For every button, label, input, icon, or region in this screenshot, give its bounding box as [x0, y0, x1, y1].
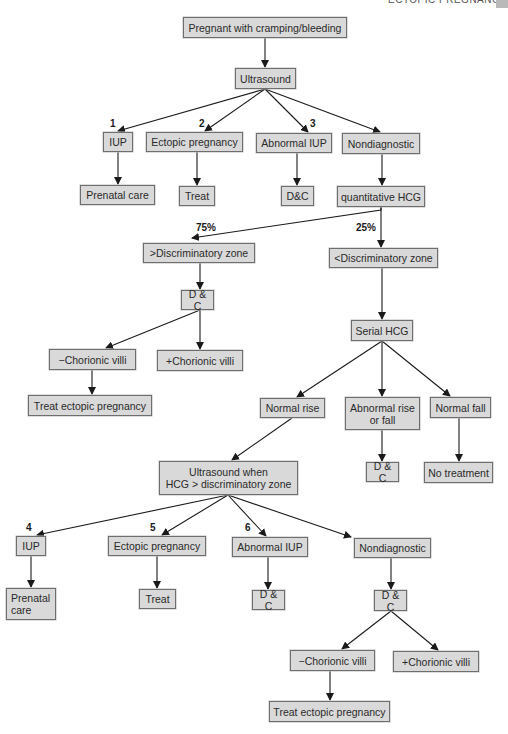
- node-ultrasound: Ultrasound: [235, 68, 296, 89]
- label-25-percent: 25%: [356, 222, 376, 233]
- node-prenatal-care-1: Prenatal care: [80, 185, 155, 205]
- node-normal-fall: Normal fall: [430, 397, 491, 418]
- node-abnormal-iup-1: Abnormal IUP: [256, 133, 332, 153]
- label-5: 5: [150, 522, 156, 533]
- label-3: 3: [310, 118, 316, 129]
- node-abnormal-iup-2: Abnormal IUP: [232, 537, 308, 557]
- node-ectopic-1: Ectopic pregnancy: [146, 132, 243, 152]
- node-ultrasound-when-hcg: Ultrasound when HCG > discriminatory zon…: [159, 461, 298, 495]
- node-below-discriminatory-zone: <Discriminatory zone: [329, 248, 438, 268]
- running-title: ECTOPIC PREGNANCY: [388, 0, 507, 5]
- node-above-discriminatory-zone: >Discriminatory zone: [143, 243, 255, 263]
- node-serial-hcg: Serial HCG: [351, 320, 413, 341]
- node-prenatal-care-2: Prenatal care: [6, 588, 56, 620]
- node-nondiagnostic-2: Nondiagnostic: [354, 538, 431, 558]
- node-positive-chorionic-villi-1: +Chorionic villi: [157, 350, 243, 371]
- node-abnormal-rise-or-fall: Abnormal rise or fall: [345, 397, 420, 430]
- label-1: 1: [110, 118, 116, 129]
- node-iup-1: IUP: [103, 132, 133, 152]
- node-start: Pregnant with cramping/bleeding: [183, 17, 347, 38]
- node-treat-ectopic-1: Treat ectopic pregnancy: [28, 395, 152, 416]
- flowchart: ECTOPIC PREGNANCY: [0, 0, 508, 734]
- node-dc-5: D & C: [374, 590, 407, 611]
- label-2: 2: [199, 118, 205, 129]
- node-dc-4: D & C: [252, 590, 285, 610]
- node-negative-chorionic-villi-2: −Chorionic villi: [290, 650, 375, 671]
- node-dc-3: D & C: [366, 462, 399, 482]
- node-dc-2: D & C: [181, 290, 214, 310]
- node-iup-2: IUP: [16, 536, 46, 556]
- node-nondiagnostic-1: Nondiagnostic: [342, 133, 420, 154]
- node-ectopic-2: Ectopic pregnancy: [108, 536, 206, 556]
- node-no-treatment: No treatment: [424, 462, 493, 483]
- node-normal-rise: Normal rise: [260, 398, 325, 418]
- node-positive-chorionic-villi-2: +Chorionic villi: [393, 651, 479, 672]
- node-treat-2: Treat: [139, 589, 176, 609]
- node-negative-chorionic-villi-1: −Chorionic villi: [49, 349, 136, 370]
- node-dc-1: D&C: [281, 186, 314, 206]
- label-4: 4: [26, 522, 32, 533]
- label-75-percent: 75%: [196, 222, 216, 233]
- page-tab-marker: [496, 0, 508, 8]
- node-treat-1: Treat: [179, 186, 215, 206]
- node-treat-ectopic-2: Treat ectopic pregnancy: [269, 701, 390, 722]
- label-6: 6: [245, 522, 251, 533]
- node-quantitative-hcg: quantitative HCG: [337, 186, 425, 207]
